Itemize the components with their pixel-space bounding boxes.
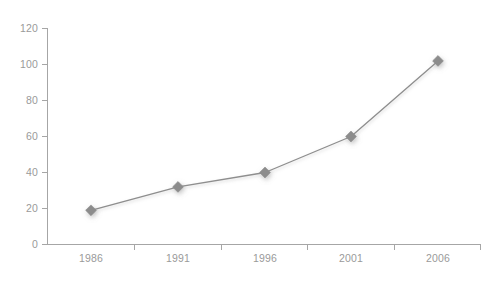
line-chart: 120 100 80 60 40 20 0 1986 1991 1996 [0, 0, 503, 283]
y-tick-label-80: 80 [26, 94, 38, 106]
x-axis-group: 1986 1991 1996 2001 2006 [48, 245, 482, 265]
y-tick-label-60: 60 [26, 130, 38, 142]
data-series-group [86, 56, 444, 216]
y-tick-label-0: 0 [32, 238, 38, 250]
x-tick-label-1986: 1986 [79, 252, 103, 264]
x-tick-label-2006: 2006 [426, 252, 450, 264]
data-point-marker [86, 205, 97, 216]
x-tick-label-1991: 1991 [166, 252, 190, 264]
data-point-marker [260, 167, 271, 178]
y-axis-tick-labels: 120 100 80 60 40 20 0 [20, 22, 38, 250]
y-tick-label-120: 120 [20, 22, 38, 34]
series-line-path [91, 61, 438, 210]
x-tick-label-2001: 2001 [339, 252, 363, 264]
y-tick-label-40: 40 [26, 166, 38, 178]
x-axis-tick-labels: 1986 1991 1996 2001 2006 [79, 252, 450, 264]
y-tick-label-100: 100 [20, 58, 38, 70]
y-axis-group: 120 100 80 60 40 20 0 [20, 22, 48, 250]
x-tick-label-1996: 1996 [253, 252, 277, 264]
data-point-markers [86, 56, 444, 216]
chart-canvas: 120 100 80 60 40 20 0 1986 1991 1996 [0, 0, 503, 283]
data-point-marker [173, 182, 184, 193]
y-tick-label-20: 20 [26, 202, 38, 214]
y-axis-ticks [42, 29, 48, 245]
x-axis-ticks [135, 245, 481, 251]
